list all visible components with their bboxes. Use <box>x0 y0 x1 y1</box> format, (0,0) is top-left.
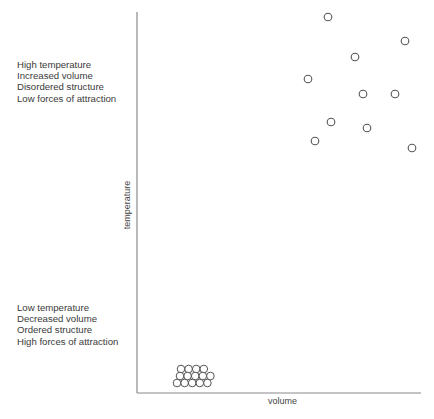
gas-particle <box>304 75 312 83</box>
annotation-line: Increased volume <box>17 70 116 81</box>
solid-particle <box>200 365 208 373</box>
solid-particle <box>199 372 207 380</box>
y-axis-title: temperature <box>122 181 132 230</box>
gas-particle <box>327 118 335 126</box>
solid-particle <box>207 372 215 380</box>
annotation-line: High forces of attraction <box>17 336 118 347</box>
solid-particle <box>188 379 196 387</box>
annotation-line: Low forces of attraction <box>17 93 116 104</box>
high-state-annotation: High temperature Increased volume Disord… <box>17 59 116 104</box>
low-state-annotation: Low temperature Decreased volume Ordered… <box>17 302 118 347</box>
gas-particle <box>351 53 359 61</box>
solid-particle <box>196 379 204 387</box>
solid-particle <box>204 379 212 387</box>
gas-particles-group <box>304 13 416 152</box>
solid-particle <box>185 365 193 373</box>
solid-particle <box>184 372 192 380</box>
annotation-line: Ordered structure <box>17 324 118 335</box>
gas-particle <box>363 124 371 132</box>
solid-particle <box>181 379 189 387</box>
annotation-line: High temperature <box>17 59 116 70</box>
solid-particle <box>177 365 185 373</box>
solid-particles-group <box>173 365 214 387</box>
annotation-line: Decreased volume <box>17 313 118 324</box>
x-axis-title-text: volume <box>268 396 297 406</box>
annotation-line: Low temperature <box>17 302 118 313</box>
gas-particle <box>391 90 399 98</box>
solid-particle <box>173 379 181 387</box>
gas-particle <box>311 137 319 145</box>
solid-particle <box>176 372 184 380</box>
annotation-line: Disordered structure <box>17 81 116 92</box>
gas-particle <box>359 90 367 98</box>
solid-particle <box>191 372 199 380</box>
gas-particle <box>401 37 409 45</box>
solid-particle <box>192 365 200 373</box>
gas-particle <box>408 144 416 152</box>
gas-particle <box>324 13 332 21</box>
